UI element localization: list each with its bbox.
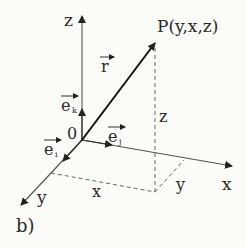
coordinate-diagram: z x y P(y,x,z) 0 r e k e j e i z x y b)	[0, 0, 246, 247]
ei-unit-vector	[63, 140, 82, 161]
ek-subscript: k	[72, 106, 77, 115]
ei-label: e	[44, 140, 53, 159]
projection-z-label: z	[159, 107, 167, 126]
figure-caption: b)	[16, 215, 35, 236]
projection-x-label: x	[92, 182, 101, 201]
ej-label: e	[108, 127, 117, 146]
z-axis-label: z	[64, 10, 73, 30]
position-vector-r	[82, 43, 155, 140]
dashed-x-projection	[51, 173, 155, 192]
point-p-label: P(y,x,z)	[157, 16, 218, 36]
y-axis-label: y	[36, 187, 47, 207]
ek-label: e	[61, 96, 70, 115]
ej-subscript: j	[118, 137, 121, 146]
r-vector-label: r	[101, 57, 109, 76]
projection-y-label: y	[175, 175, 185, 194]
ei-subscript: i	[55, 150, 58, 159]
x-axis-label: x	[222, 174, 232, 194]
origin-label: 0	[67, 124, 77, 143]
